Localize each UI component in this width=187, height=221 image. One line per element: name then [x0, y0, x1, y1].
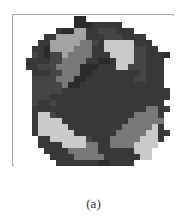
figure-caption: (a) [0, 196, 187, 212]
segmentation-image [14, 16, 176, 166]
pixel-cell [170, 160, 176, 166]
figure-frame [12, 14, 174, 166]
